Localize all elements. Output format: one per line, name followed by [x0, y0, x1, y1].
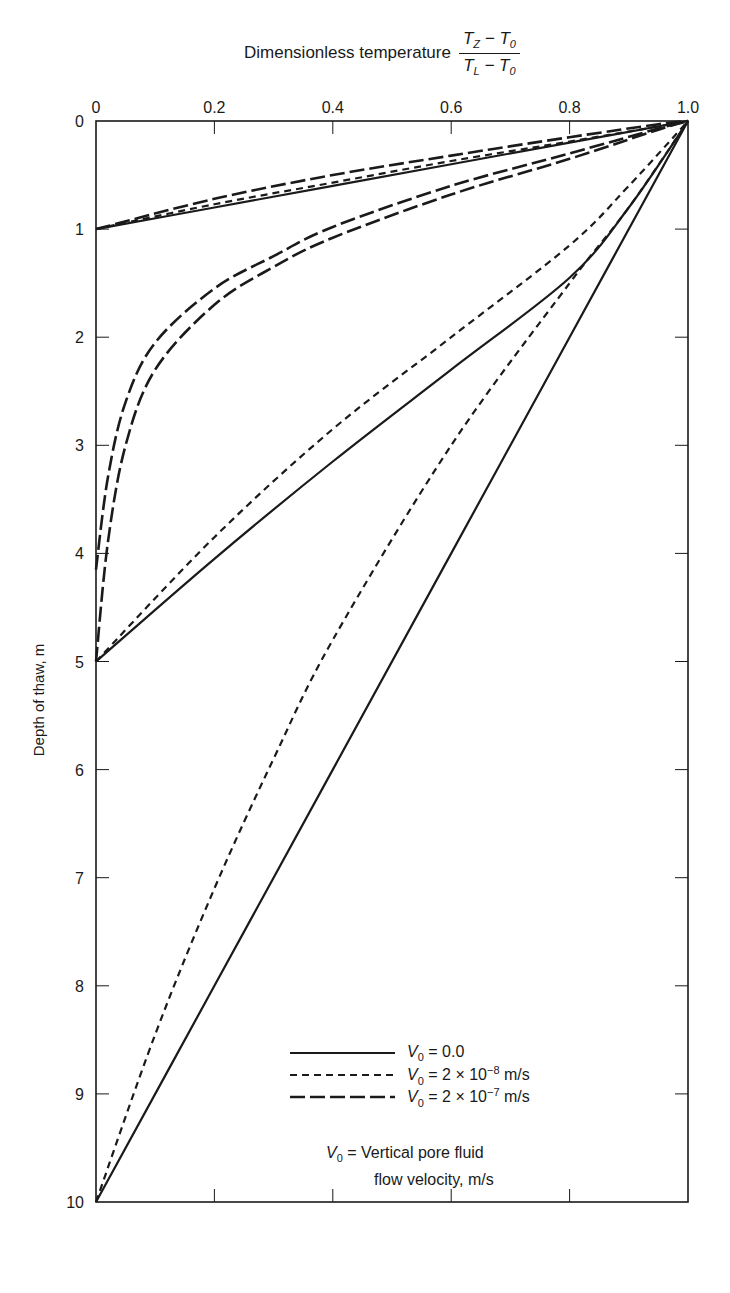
curve-solid	[96, 121, 688, 662]
y-tick-label: 5	[75, 654, 84, 671]
curve-long-dash	[96, 121, 688, 662]
y-tick-label: 4	[75, 545, 84, 562]
y-tick-label: 0	[75, 113, 84, 130]
velocity-definition-note: V0 = Vertical pore fluid flow velocity, …	[326, 1142, 494, 1190]
y-tick-label: 8	[75, 978, 84, 995]
y-tick-label: 2	[75, 329, 84, 346]
legend-label: V0 = 2 × 10−8 m/s	[407, 1064, 530, 1087]
x-tick-label: 0	[92, 99, 101, 116]
solid-line-swatch	[290, 1048, 395, 1058]
x-tick-label: 1.0	[677, 99, 699, 116]
y-tick-label: 3	[75, 437, 84, 454]
legend-label: V0 = 0.0	[407, 1043, 464, 1063]
legend: V0 = 0.0 V0 = 2 × 10−8 m/s V0 = 2 × 10−7…	[290, 1042, 530, 1108]
y-tick-label: 1	[75, 221, 84, 238]
legend-item-v0-zero: V0 = 0.0	[290, 1042, 530, 1064]
legend-label: V0 = 2 × 10−7 m/s	[407, 1086, 530, 1109]
y-tick-label: 10	[66, 1194, 84, 1211]
curve-solid	[96, 121, 688, 229]
x-tick-label: 0.8	[558, 99, 580, 116]
x-tick-label: 0.6	[440, 99, 462, 116]
y-tick-label: 7	[75, 870, 84, 887]
curve-solid	[96, 121, 688, 1202]
x-tick-label: 0.4	[322, 99, 344, 116]
legend-item-v0-2e-8: V0 = 2 × 10−8 m/s	[290, 1064, 530, 1086]
data-curves	[96, 121, 688, 1202]
note-line-1: V0 = Vertical pore fluid	[326, 1142, 494, 1169]
y-tick-label: 9	[75, 1086, 84, 1103]
legend-item-v0-2e-7: V0 = 2 × 10−7 m/s	[290, 1086, 530, 1108]
short-dash-swatch	[290, 1070, 395, 1080]
long-dash-swatch	[290, 1092, 395, 1102]
x-tick-label: 0.2	[203, 99, 225, 116]
curve-long-dash	[96, 121, 688, 570]
curve-short-dash	[96, 121, 688, 662]
note-line-2: flow velocity, m/s	[326, 1169, 494, 1190]
y-tick-label: 6	[75, 762, 84, 779]
